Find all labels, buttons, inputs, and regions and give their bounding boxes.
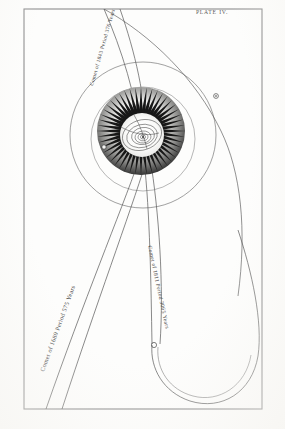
sun-body [97, 87, 185, 175]
perihelion-point-lower [151, 342, 156, 347]
label-comet-1811: Comet of 1811 Period 3065 Years [147, 245, 171, 329]
plate-caption-numeral: IV. [219, 9, 228, 15]
plate-caption: PLATE IV. [196, 8, 228, 16]
comet-path-1680-a [46, 160, 139, 409]
plate-frame [24, 9, 262, 409]
comet-path-1680-b [62, 162, 146, 409]
plate-caption-word: PLATE [196, 9, 217, 15]
astronomical-diagram: Comet of 1680 Period 575 Years Comet of … [0, 0, 285, 429]
comet-paths [46, 9, 259, 409]
plate-canvas: Comet of 1680 Period 575 Years Comet of … [0, 0, 285, 429]
node-point-sun-left [102, 145, 106, 149]
great-ellipse-lower-return [158, 347, 251, 398]
node-point-upper-right [214, 94, 219, 99]
label-comet-1680: Comet of 1680 Period 575 Years [38, 284, 76, 372]
